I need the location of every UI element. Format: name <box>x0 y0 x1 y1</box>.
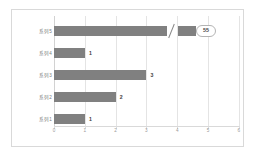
plot-area: 系列5 55 系列4 1 系列3 3 系列2 2 系列1 <box>12 10 245 148</box>
bar-series-5[interactable] <box>54 26 167 36</box>
bar-row-series-5: 系列5 55 <box>12 20 245 42</box>
bar-row-series-2: 系列2 2 <box>12 86 245 108</box>
x-tick-label-5: 5 <box>201 128 215 133</box>
bar-value-series-3: 3 <box>151 72 154 78</box>
x-tick-label-6: 6 <box>232 128 246 133</box>
x-tick-label-1: 1 <box>78 128 92 133</box>
category-label-series-2: 系列2 <box>16 94 52 100</box>
chart-frame: 系列5 55 系列4 1 系列3 3 系列2 2 系列1 <box>11 9 244 147</box>
bar-row-series-4: 系列4 1 <box>12 42 245 64</box>
bar-series-5-stub[interactable] <box>178 26 196 36</box>
bar-series-4[interactable] <box>54 48 85 58</box>
x-tick-label-4: 4 <box>170 128 184 133</box>
category-label-series-1: 系列1 <box>16 116 52 122</box>
x-tick-label-0: 0 <box>47 128 61 133</box>
axis-break-icon <box>167 24 176 39</box>
bar-row-series-3: 系列3 3 <box>12 64 245 86</box>
bar-series-2[interactable] <box>54 92 116 102</box>
bar-value-series-4: 1 <box>89 50 92 56</box>
category-label-series-3: 系列3 <box>16 72 52 78</box>
x-tick-label-2: 2 <box>109 128 123 133</box>
bar-series-3[interactable] <box>54 70 146 80</box>
bar-value-series-2: 2 <box>120 94 123 100</box>
category-label-series-5: 系列5 <box>16 28 52 34</box>
value-callout-text: 55 <box>203 28 209 33</box>
value-callout-series-5[interactable]: 55 <box>196 25 216 37</box>
category-label-series-4: 系列4 <box>16 50 52 56</box>
bar-series-1[interactable] <box>54 114 85 124</box>
bar-value-series-1: 1 <box>89 116 92 122</box>
x-tick-label-3: 3 <box>139 128 153 133</box>
